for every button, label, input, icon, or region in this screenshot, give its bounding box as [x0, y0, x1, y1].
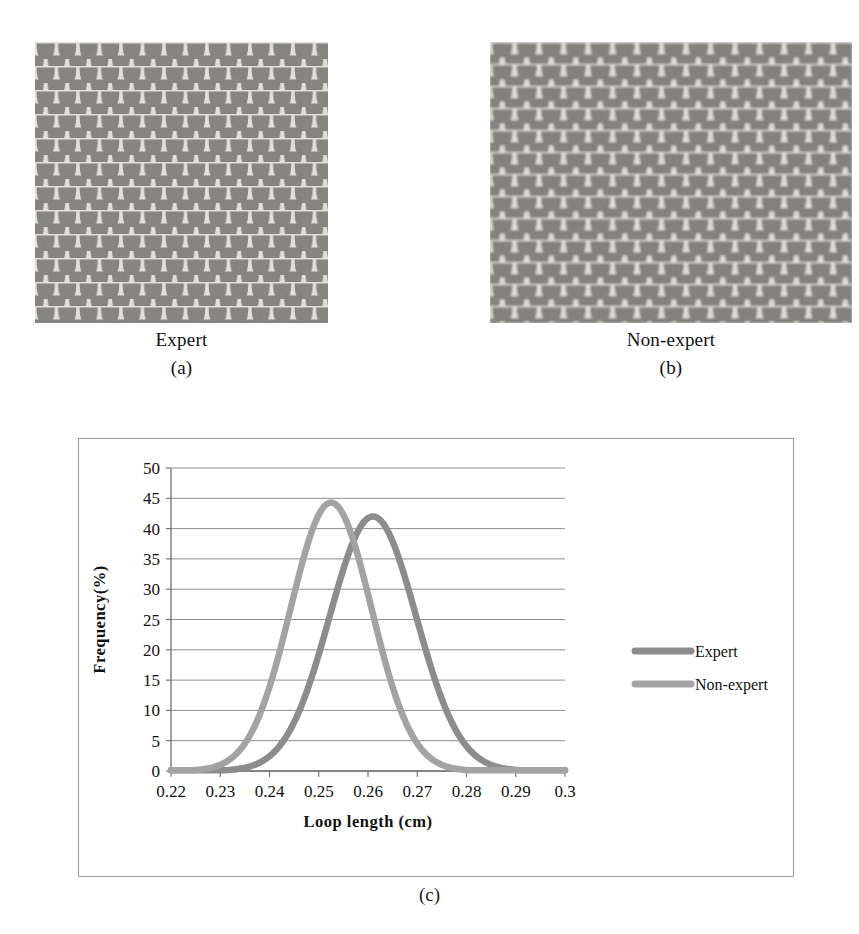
figure-caption-non-expert: Non-expert [490, 329, 852, 351]
y-tick-label: 5 [152, 732, 161, 751]
fabric-texture-non-expert-svg [490, 42, 852, 323]
figure-sublabel-b: (b) [490, 357, 852, 379]
chart-plot-area: 05101520253035404550 0.220.230.240.250.2… [79, 439, 793, 876]
x-tick-label: 0.25 [304, 782, 334, 801]
x-tick-label: 0.3 [554, 782, 575, 801]
y-tick-label: 20 [143, 641, 160, 660]
x-tick-label: 0.24 [255, 782, 285, 801]
knitted-fabric-micrograph-non-expert [490, 42, 852, 323]
x-tick-label: 0.27 [402, 782, 432, 801]
chart-axes [166, 468, 565, 777]
y-tick-label: 15 [143, 671, 160, 690]
x-tick-label: 0.29 [501, 782, 531, 801]
figure-expert: Expert (a) [35, 42, 328, 323]
fabric-texture-expert-svg [35, 42, 328, 323]
y-tick-label: 50 [143, 459, 160, 478]
y-tick-label: 35 [143, 550, 160, 569]
series-curve-expert [171, 516, 565, 770]
legend-label-expert: Expert [695, 643, 738, 661]
chart-legend: ExpertNon-expert [635, 643, 768, 694]
y-tick-label: 40 [143, 520, 160, 539]
x-axis-title: Loop length (cm) [304, 812, 433, 831]
frequency-distribution-chart: 05101520253035404550 0.220.230.240.250.2… [78, 438, 794, 877]
figure-sublabel-c: (c) [0, 884, 859, 906]
chart-y-tick-labels: 05101520253035404550 [143, 459, 160, 781]
figure-non-expert: Non-expert (b) [490, 42, 852, 323]
knitted-fabric-micrograph-expert [35, 42, 328, 323]
y-tick-label: 30 [143, 580, 160, 599]
series-curve-non-expert [171, 503, 565, 771]
x-tick-label: 0.26 [353, 782, 383, 801]
figure-caption-expert: Expert [35, 329, 328, 351]
chart-series-curves [171, 503, 565, 771]
chart-x-tick-labels: 0.220.230.240.250.260.270.280.290.3 [156, 782, 576, 801]
y-tick-label: 0 [152, 762, 161, 781]
y-tick-label: 25 [143, 611, 160, 630]
legend-label-non-expert: Non-expert [695, 676, 768, 694]
chart-svg: 05101520253035404550 0.220.230.240.250.2… [79, 439, 793, 876]
y-axis-title: Frequency(%) [90, 565, 109, 673]
x-tick-label: 0.28 [452, 782, 482, 801]
x-tick-label: 0.23 [205, 782, 235, 801]
y-tick-label: 45 [143, 489, 160, 508]
chart-gridlines [171, 468, 565, 771]
x-tick-label: 0.22 [156, 782, 186, 801]
y-tick-label: 10 [143, 701, 160, 720]
figure-sublabel-a: (a) [35, 357, 328, 379]
